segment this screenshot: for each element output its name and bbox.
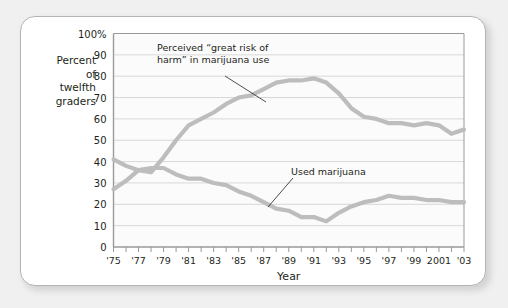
- y-axis-caption-line-3: twelfth: [28, 81, 96, 95]
- figure-root: Percent of twelfth graders 0102030405060…: [0, 0, 508, 308]
- y-axis-caption-line-1: Percent: [28, 54, 96, 68]
- y-axis-caption-line-4: graders: [28, 95, 96, 109]
- y-axis-caption: Percent of twelfth graders: [28, 54, 96, 108]
- y-axis-caption-line-2: of: [28, 68, 96, 82]
